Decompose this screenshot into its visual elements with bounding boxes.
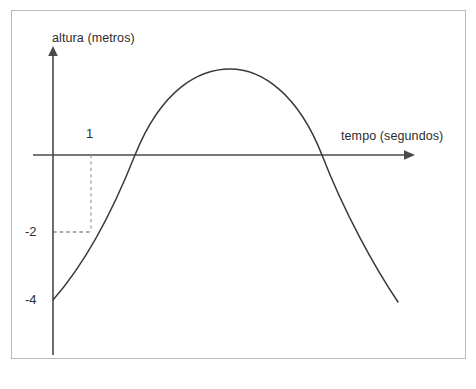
guide-lines-group <box>53 155 91 232</box>
y-axis-arrow-icon <box>48 46 58 56</box>
y-tick-label-neg2: -2 <box>25 224 37 239</box>
chart-canvas <box>0 0 476 389</box>
parabola-curve <box>53 69 398 302</box>
x-axis <box>33 150 415 160</box>
x-tick-label-1: 1 <box>86 126 93 141</box>
figure-root: altura (metros) tempo (segundos) 1 -2 -4 <box>0 0 476 389</box>
x-axis-label: tempo (segundos) <box>341 129 443 143</box>
y-tick-label-neg4: -4 <box>25 292 37 307</box>
y-axis <box>48 46 58 355</box>
y-axis-label: altura (metros) <box>52 31 135 45</box>
x-axis-arrow-icon <box>404 150 415 160</box>
